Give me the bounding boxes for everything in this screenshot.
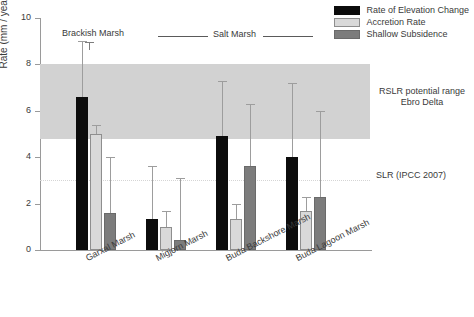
error-bar-cap-accr-group-1 (92, 125, 101, 126)
error-bar-stem-subs-group-4 (320, 111, 321, 197)
error-bar-stem-elev-group-4 (292, 83, 293, 157)
error-bar-stem-accr-group-1 (96, 125, 97, 134)
y-tick-label-6: 6 (26, 104, 31, 117)
error-bar-cap-subs-group-4 (316, 111, 325, 112)
error-bar-stem-subs-group-1 (110, 157, 111, 213)
error-bar-cap-accr-group-2 (162, 211, 171, 212)
error-bar-stem-elev-group-2 (152, 166, 153, 218)
error-bar-stem-subs-group-3 (250, 104, 251, 167)
error-bar-stem-accr-group-2 (166, 211, 167, 227)
legend-swatch-elevation-change (334, 6, 360, 15)
error-bar-cap-subs-group-2 (176, 178, 185, 179)
slr-annotation: SLR (IPCC 2007) (376, 170, 446, 181)
bar-accr-group-1 (90, 134, 102, 250)
legend-item-elevation-change: Rate of Elevation Change (334, 5, 469, 15)
error-bar-stem-elev-group-1 (82, 41, 83, 97)
error-bar-stem-subs-group-2 (180, 178, 181, 239)
error-bar-cap-accr-group-4 (302, 197, 311, 198)
error-bar-cap-elev-group-1 (78, 41, 87, 42)
plot-area (40, 18, 370, 250)
y-tick-label-8: 8 (26, 57, 31, 70)
rslr-band-annotation-line1: RSLR potential range (376, 86, 468, 97)
y-tick-label-0: 0 (26, 243, 31, 256)
legend-label-shallow-subsidence: Shallow Subsidence (366, 29, 447, 39)
error-bar-cap-elev-group-4 (288, 83, 297, 84)
error-bar-stem-accr-group-3 (236, 204, 237, 219)
figure-canvas: Rate of Elevation Change Accretion Rate … (0, 0, 474, 317)
error-bar-cap-elev-group-3 (218, 81, 227, 82)
bar-elev-group-3 (216, 136, 228, 250)
rslr-band-annotation-line2: Ebro Delta (376, 97, 468, 108)
legend-label-elevation-change: Rate of Elevation Change (366, 5, 469, 15)
error-bar-cap-subs-group-1 (106, 157, 115, 158)
bar-elev-group-2 (146, 219, 158, 250)
y-tick-label-4: 4 (26, 150, 31, 163)
error-bar-cap-elev-group-2 (148, 166, 157, 167)
error-bar-stem-elev-group-3 (222, 81, 223, 137)
error-bar-cap-subs-group-3 (246, 104, 255, 105)
y-axis-title: Rate (mm / year) (0, 0, 9, 96)
error-bar-stem-accr-group-4 (306, 197, 307, 211)
rslr-band-annotation: RSLR potential range Ebro Delta (376, 86, 468, 108)
bar-elev-group-4 (286, 157, 298, 250)
legend-label-accretion-rate: Accretion Rate (366, 17, 425, 27)
y-tick-label-2: 2 (26, 197, 31, 210)
error-bar-cap-accr-group-3 (232, 204, 241, 205)
bar-elev-group-1 (76, 97, 88, 250)
y-tick-label-10: 10 (21, 11, 31, 24)
